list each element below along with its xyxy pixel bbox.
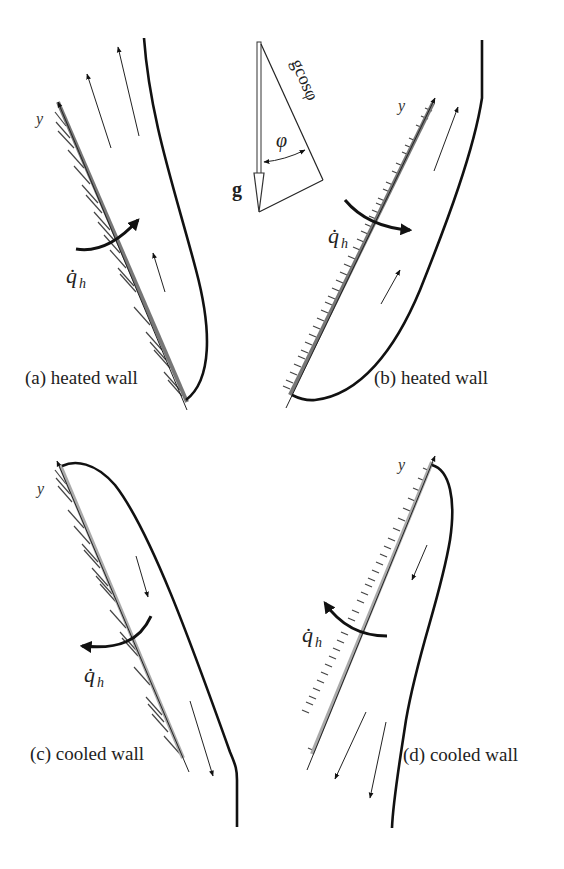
y-axis-a [58, 102, 187, 410]
caption-a: (a) heated wall [25, 367, 138, 389]
angle-label: φ [276, 129, 287, 152]
svg-text:h: h [97, 675, 104, 690]
panel-d: y q̇ h (d) cooled wall [302, 456, 518, 828]
gravity-vector-head [254, 173, 264, 212]
svg-text:q̇: q̇ [84, 662, 95, 687]
y-axis-label-a: y [34, 110, 44, 128]
flow-arrow-a1 [87, 74, 111, 148]
svg-text:h: h [315, 635, 322, 650]
flow-arrow-b1 [434, 107, 458, 171]
heat-flux-arrow-c [82, 616, 151, 647]
triangle-base [259, 180, 323, 212]
gravity-vector-shaft [257, 42, 261, 174]
svg-text:h: h [79, 276, 86, 291]
y-axis-label-d: y [396, 456, 406, 474]
gcos-label: gcosφ [287, 56, 322, 104]
flow-arrow-a3 [153, 253, 165, 292]
caption-b: (b) heated wall [374, 367, 488, 389]
caption-c: (c) cooled wall [30, 743, 144, 765]
svg-text:q̇: q̇ [328, 223, 339, 248]
y-axis-label-b: y [396, 97, 406, 115]
heat-flux-label-d: q̇ h [302, 622, 322, 650]
flow-arrow-a2 [118, 47, 139, 136]
boundary-layer-diagram: y q̇ h (a) heated wall φ g gcosφ [0, 0, 564, 869]
caption-d: (d) cooled wall [403, 744, 518, 766]
y-axis-c [57, 461, 189, 772]
wall-hatching-c [55, 470, 180, 754]
y-axis-label-c: y [35, 480, 45, 498]
heat-flux-arrow-d [325, 603, 387, 636]
flow-arrow-d1 [412, 545, 427, 580]
svg-text:h: h [341, 236, 348, 251]
svg-text:q̇: q̇ [302, 622, 313, 647]
y-axis-b [286, 98, 435, 408]
y-axis-d [307, 456, 435, 770]
svg-text:q̇: q̇ [66, 263, 77, 288]
gravity-inset: φ g gcosφ [232, 42, 323, 212]
gravity-label: g [232, 178, 242, 201]
angle-arc [264, 150, 305, 162]
heat-flux-label-b: q̇ h [328, 223, 348, 251]
heat-flux-label-a: q̇ h [66, 263, 86, 291]
panel-c: y q̇ h (c) cooled wall [30, 461, 237, 827]
flow-arrow-d3 [370, 722, 386, 798]
flow-arrow-c2 [190, 701, 213, 776]
flow-arrow-c1 [136, 556, 148, 597]
heat-flux-label-c: q̇ h [84, 662, 104, 690]
heat-flux-arrow-a [76, 220, 138, 250]
flow-arrow-b2 [381, 270, 400, 304]
flow-arrow-d2 [335, 712, 366, 779]
panel-a: y q̇ h (a) heated wall [25, 38, 207, 410]
